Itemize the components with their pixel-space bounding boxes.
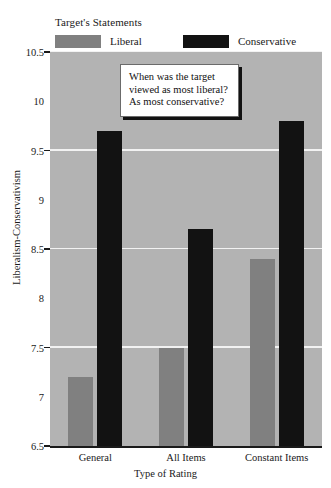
annotation-callout: When was the target viewed as most liber… bbox=[120, 64, 239, 117]
bar-conservative-all-items bbox=[188, 229, 213, 446]
x-tick-label: Constant Items bbox=[245, 452, 308, 463]
y-tick-label: 10 bbox=[34, 96, 45, 107]
annotation-line-2: viewed as most liberal? bbox=[129, 84, 231, 97]
y-tick-mark bbox=[44, 248, 50, 250]
y-tick-mark bbox=[44, 347, 50, 349]
bar-chart-figure: Target's Statements Liberal Conservative… bbox=[0, 0, 331, 488]
legend: Liberal Conservative bbox=[55, 33, 315, 49]
y-axis-tick-labels: 10.5109.598.587.576.5 bbox=[0, 0, 44, 488]
legend-label-liberal: Liberal bbox=[110, 35, 142, 47]
x-axis-title: Type of Rating bbox=[0, 468, 331, 479]
y-tick-mark bbox=[44, 445, 50, 447]
legend-item-liberal: Liberal bbox=[55, 33, 142, 49]
legend-title: Target's Statements bbox=[55, 16, 142, 28]
legend-swatch-liberal bbox=[55, 35, 101, 48]
bar-conservative-general bbox=[97, 131, 122, 446]
annotation-line-3: As most conservative? bbox=[129, 96, 231, 109]
bar-liberal-constant-items bbox=[250, 259, 275, 446]
bar-conservative-constant-items bbox=[279, 121, 304, 446]
x-axis-line bbox=[50, 446, 322, 448]
x-tick-label: All Items bbox=[166, 452, 205, 463]
y-tick-label: 6.5 bbox=[31, 441, 44, 452]
bar-liberal-general bbox=[68, 377, 93, 446]
legend-item-conservative: Conservative bbox=[183, 33, 296, 49]
legend-swatch-conservative bbox=[183, 35, 229, 48]
y-tick-mark bbox=[44, 150, 50, 152]
y-tick-label: 9.5 bbox=[31, 145, 44, 156]
legend-label-conservative: Conservative bbox=[238, 35, 296, 47]
y-tick-label: 8.5 bbox=[31, 244, 44, 255]
y-tick-label: 7.5 bbox=[31, 342, 44, 353]
y-axis-title: Liberalism-Conservativism bbox=[11, 128, 22, 328]
x-tick-label: General bbox=[79, 452, 112, 463]
annotation-line-1: When was the target bbox=[129, 71, 231, 84]
y-tick-label: 10.5 bbox=[26, 47, 44, 58]
bar-liberal-all-items bbox=[159, 348, 184, 447]
y-axis-tick-marks bbox=[44, 0, 50, 488]
y-tick-mark bbox=[44, 51, 50, 53]
